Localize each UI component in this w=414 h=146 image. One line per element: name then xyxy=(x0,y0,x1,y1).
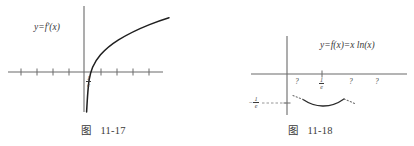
caption-tag-right: 图 xyxy=(288,124,298,136)
plot-area-left xyxy=(0,0,207,118)
equation-label-left: y=f'(x) xyxy=(34,23,60,33)
figure-11-18: y=f(x)=x ln(x) ? 1 e ? ? − 1 e xyxy=(207,0,414,146)
fraction-1-over-e-right: 1 e xyxy=(319,77,324,91)
fraction-1-over-e: 1 e xyxy=(86,75,91,89)
figure-pair-page: y=f'(x) 1 e 图11-17 xyxy=(0,0,414,146)
x-tick-label-1-over-e-left: 1 e xyxy=(86,75,91,89)
y-tick-label-neg-1-over-e: − 1 e xyxy=(249,96,259,110)
equation-text-right: y=f(x)=x ln(x) xyxy=(320,40,375,50)
x-tick-label-1-over-e-right: 1 e xyxy=(319,77,324,91)
plot-area-right xyxy=(207,0,414,118)
fraction-denominator: e xyxy=(253,103,258,110)
negative-fraction-1-over-e: − 1 e xyxy=(249,96,259,110)
x-tick-label-q1: ? xyxy=(295,77,299,86)
fraction-1-over-e-y: 1 e xyxy=(253,96,258,110)
curve-dotted-right-tail xyxy=(344,99,356,104)
x-tick-label-q3: ? xyxy=(375,77,379,86)
minus-sign: − xyxy=(249,99,253,107)
caption-number-right: 11-18 xyxy=(308,125,333,136)
function-curve-x-lnx xyxy=(303,99,344,106)
x-tick-text-q3: ? xyxy=(375,77,379,86)
fraction-denominator: e xyxy=(319,84,324,91)
x-tick-text-q2: ? xyxy=(349,77,353,86)
function-curve-f-prime xyxy=(87,18,169,112)
equation-label-right: y=f(x)=x ln(x) xyxy=(320,41,375,51)
caption-11-18: 图11-18 xyxy=(207,122,414,137)
caption-number-left: 11-17 xyxy=(101,125,126,136)
caption-tag-left: 图 xyxy=(81,124,91,136)
x-tick-text-q1: ? xyxy=(295,77,299,86)
figure-11-17: y=f'(x) 1 e 图11-17 xyxy=(0,0,207,146)
fraction-denominator: e xyxy=(86,82,91,89)
curve-dotted-left-tail xyxy=(293,96,303,100)
x-tick-label-q2: ? xyxy=(349,77,353,86)
plot-svg-right xyxy=(207,0,414,118)
plot-svg-left xyxy=(0,0,207,118)
caption-11-17: 图11-17 xyxy=(0,122,207,137)
equation-text-left: y=f'(x) xyxy=(34,22,60,32)
